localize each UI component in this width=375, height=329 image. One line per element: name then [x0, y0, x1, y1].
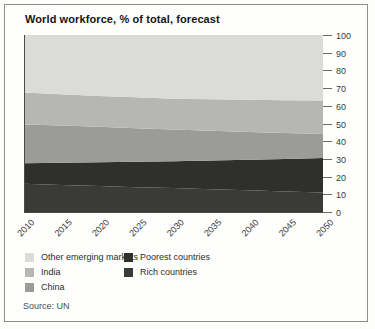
y-tick-label: 0 — [336, 208, 341, 218]
legend-column-1: Other emerging marketsIndiaChina — [25, 253, 138, 298]
source-note: Source: UN — [23, 301, 70, 311]
legend-item-other-emerging-markets: Other emerging markets — [25, 253, 138, 262]
legend: Other emerging marketsIndiaChina Poorest… — [25, 253, 355, 299]
y-tick-label: 100 — [336, 31, 351, 41]
legend-item-rich-countries: Rich countries — [124, 268, 210, 277]
y-tick-label: 60 — [336, 102, 346, 112]
legend-label: Rich countries — [140, 268, 197, 277]
legend-swatch — [124, 253, 133, 262]
y-tick-label: 10 — [336, 190, 346, 200]
y-tick-label: 40 — [336, 137, 346, 147]
x-tick-label: 2050 — [314, 217, 335, 238]
y-tick-label: 20 — [336, 173, 346, 183]
y-tick-label: 90 — [336, 49, 346, 59]
stacked-area-chart: 0102030405060708090100201020152020202520… — [0, 0, 375, 250]
legend-item-china: China — [25, 283, 138, 292]
x-tick-label: 2030 — [165, 217, 186, 238]
legend-swatch — [25, 268, 34, 277]
x-tick-label: 2040 — [240, 217, 261, 238]
y-tick-label: 70 — [336, 84, 346, 94]
legend-item-poorest-countries: Poorest countries — [124, 253, 210, 262]
y-tick-label: 80 — [336, 66, 346, 76]
legend-label: China — [41, 283, 65, 292]
x-tick-label: 2015 — [53, 217, 74, 238]
legend-column-2: Poorest countriesRich countries — [124, 253, 210, 283]
legend-label: India — [41, 268, 61, 277]
y-tick-label: 30 — [336, 155, 346, 165]
legend-item-india: India — [25, 268, 138, 277]
legend-swatch — [25, 253, 34, 262]
x-tick-label: 2045 — [277, 217, 298, 238]
x-tick-label: 2010 — [15, 217, 36, 238]
x-tick-label: 2020 — [90, 217, 111, 238]
y-tick-label: 50 — [336, 120, 346, 130]
area-series-other-emerging-markets — [24, 35, 323, 100]
legend-swatch — [124, 268, 133, 277]
x-tick-label: 2035 — [202, 217, 223, 238]
legend-swatch — [25, 283, 34, 292]
x-tick-label: 2025 — [127, 217, 148, 238]
legend-label: Poorest countries — [140, 253, 210, 262]
